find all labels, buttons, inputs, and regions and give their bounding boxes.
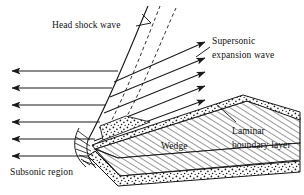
leader-head-shock <box>136 14 151 26</box>
label-wedge: Wedge <box>161 140 188 153</box>
supersonic-wedge-diagram: Head shock wave Supersonic expansion wav… <box>0 0 304 195</box>
label-supersonic-line2: expansion wave <box>212 48 274 62</box>
expansion-arrow <box>114 42 205 82</box>
leader-supersonic <box>196 47 210 57</box>
label-laminar-line2: boundary layer <box>232 138 291 152</box>
label-subsonic-region: Subsonic region <box>10 166 73 179</box>
label-laminar-boundary-layer: Laminar boundary layer <box>232 124 291 152</box>
label-supersonic-expansion-wave: Supersonic expansion wave <box>212 34 274 62</box>
label-supersonic-line1: Supersonic <box>212 34 274 48</box>
subsonic-region-hatching <box>75 131 95 165</box>
label-laminar-line1: Laminar <box>232 124 291 138</box>
label-head-shock-wave: Head shock wave <box>52 19 121 32</box>
